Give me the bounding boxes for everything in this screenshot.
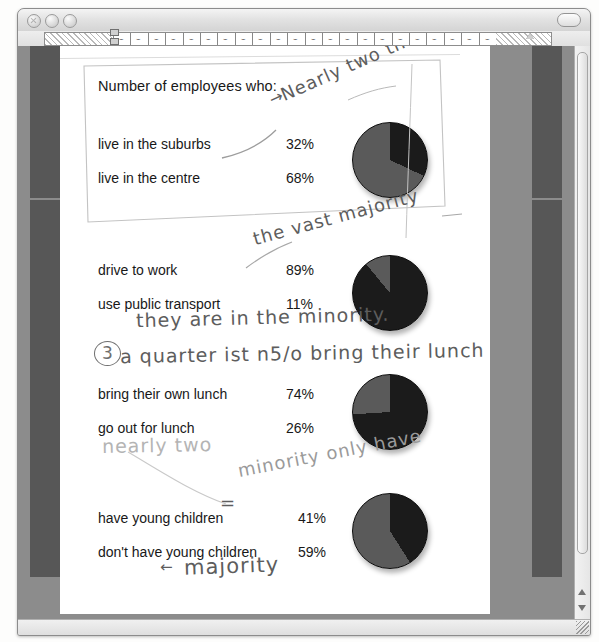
ruler-tab-stop[interactable]: ⌣ — [119, 36, 124, 43]
annotation-majority: majority — [184, 552, 280, 579]
annotation-majority-arrow: ← — [160, 558, 174, 576]
data-row: have young children 41% — [98, 510, 223, 526]
ruler-tab-stop[interactable]: ⌣ — [311, 36, 316, 43]
ruler-tab-stop[interactable]: ⌣ — [258, 36, 263, 43]
ruler-tick — [200, 33, 201, 45]
ruler-indent-marker[interactable] — [110, 29, 117, 46]
ruler-tab-stop[interactable]: ⌣ — [415, 36, 420, 43]
row-value: 59% — [298, 544, 326, 560]
scroll-up-arrow-icon[interactable] — [578, 589, 586, 595]
ruler-tab-stop[interactable]: ⌣ — [293, 36, 298, 43]
ruler-tick — [392, 33, 393, 45]
ruler-tick — [305, 33, 306, 45]
annotation-a-quarter-bring-their-lunch: a quarter ist n5/o bring their lunch — [120, 339, 485, 367]
ruler-tick — [461, 33, 462, 45]
data-row: live in the centre 68% — [98, 170, 200, 186]
close-icon — [28, 15, 40, 27]
ruler-left-margin — [45, 33, 113, 45]
annotation-minority-only-have: minority only have — [236, 425, 423, 481]
row-label: drive to work — [98, 262, 177, 278]
ruler-tick-row: ⌣⌣⌣⌣⌣⌣⌣⌣⌣⌣⌣⌣⌣⌣⌣⌣⌣⌣⌣⌣⌣⌣ — [113, 33, 496, 45]
ruler-right-indent-marker[interactable] — [526, 33, 534, 39]
ruler-tick — [252, 33, 253, 45]
data-row: live in the suburbs 32% — [98, 136, 211, 152]
page-title: Number of employees who: — [98, 78, 277, 94]
document-page: Number of employees who: live in the sub… — [60, 46, 490, 614]
row-value: 68% — [286, 170, 314, 186]
ruler-tick — [217, 33, 218, 45]
ruler-tab-stop[interactable]: ⌣ — [171, 36, 176, 43]
ruler-tab-stop[interactable]: ⌣ — [189, 36, 194, 43]
ruler-tab-stop[interactable]: ⌣ — [136, 36, 141, 43]
zoom-icon — [64, 15, 76, 27]
data-row: drive to work 89% — [98, 262, 177, 278]
ruler-tab-stop[interactable]: ⌣ — [241, 36, 246, 43]
row-value: 89% — [286, 262, 314, 278]
ruler-tab-stop[interactable]: ⌣ — [276, 36, 281, 43]
ruler-tab-stop[interactable]: ⌣ — [328, 36, 333, 43]
ruler-tab-stop[interactable]: ⌣ — [398, 36, 403, 43]
horizontal-scrollbar[interactable] — [18, 619, 590, 635]
ruler-tick — [235, 33, 236, 45]
window-resize-grip[interactable] — [576, 621, 589, 634]
ruler-tab-stop[interactable]: ⌣ — [206, 36, 211, 43]
ruler-tab-stop[interactable]: ⌣ — [432, 36, 437, 43]
ruler[interactable]: ⌣⌣⌣⌣⌣⌣⌣⌣⌣⌣⌣⌣⌣⌣⌣⌣⌣⌣⌣⌣⌣⌣ — [44, 32, 552, 46]
annotation-circled-number-3: 3 — [94, 341, 121, 366]
ruler-tab-stop[interactable]: ⌣ — [485, 36, 490, 43]
ruler-tick — [148, 33, 149, 45]
ruler-tick — [339, 33, 340, 45]
ruler-tick — [444, 33, 445, 45]
ruler-strip: ⌣⌣⌣⌣⌣⌣⌣⌣⌣⌣⌣⌣⌣⌣⌣⌣⌣⌣⌣⌣⌣⌣ — [18, 31, 590, 47]
ruler-tab-stop[interactable]: ⌣ — [154, 36, 159, 43]
ruler-tab-stop[interactable]: ⌣ — [450, 36, 455, 43]
row-label: live in the suburbs — [98, 136, 211, 152]
vertical-scrollbar[interactable] — [574, 46, 590, 619]
ruler-tick — [426, 33, 427, 45]
ruler-tick — [479, 33, 480, 45]
row-value: 26% — [286, 420, 314, 436]
zoom-button[interactable] — [63, 14, 77, 28]
row-label: live in the centre — [98, 170, 200, 186]
page-frame-line-top — [60, 54, 460, 59]
page-right-gutter — [532, 46, 562, 577]
minimize-icon — [46, 15, 58, 27]
document-window: ⌣⌣⌣⌣⌣⌣⌣⌣⌣⌣⌣⌣⌣⌣⌣⌣⌣⌣⌣⌣⌣⌣ Number of emplo — [17, 8, 591, 636]
minimize-button[interactable] — [45, 14, 59, 28]
toolbar-toggle-button[interactable] — [557, 13, 581, 27]
ruler-tab-stop[interactable]: ⌣ — [467, 36, 472, 43]
ruler-tick — [409, 33, 410, 45]
pie-chart-children — [352, 493, 428, 569]
document-canvas: Number of employees who: live in the sub… — [18, 46, 574, 619]
ruler-tick — [270, 33, 271, 45]
scanned-page-background: ⌣⌣⌣⌣⌣⌣⌣⌣⌣⌣⌣⌣⌣⌣⌣⌣⌣⌣⌣⌣⌣⌣ Number of emplo — [0, 0, 599, 642]
close-button[interactable] — [27, 14, 41, 28]
ruler-tab-stop[interactable]: ⌣ — [363, 36, 368, 43]
row-value: 74% — [286, 386, 314, 402]
scroll-down-arrow-icon[interactable] — [578, 605, 586, 611]
vertical-scrollbar-thumb[interactable] — [577, 52, 588, 554]
row-value: 32% — [286, 136, 314, 152]
row-label: have young children — [98, 510, 223, 526]
ruler-right-margin — [496, 33, 551, 45]
ruler-tab-stop[interactable]: ⌣ — [223, 36, 228, 43]
annotation-equals-sign: = — [220, 492, 236, 513]
ruler-tab-stop[interactable]: ⌣ — [345, 36, 350, 43]
ruler-tick — [130, 33, 131, 45]
annotation-the-vast-majority: the vast majority — [251, 185, 421, 249]
pie-chart-residence — [352, 122, 428, 198]
ruler-tick — [165, 33, 166, 45]
row-value: 41% — [298, 510, 326, 526]
ruler-tick — [183, 33, 184, 45]
ruler-tick — [374, 33, 375, 45]
data-row: bring their own lunch 74% — [98, 386, 227, 402]
annotation-nearly-two: nearly two — [102, 433, 213, 457]
row-label: bring their own lunch — [98, 386, 227, 402]
ruler-tick — [357, 33, 358, 45]
page-content: Number of employees who: live in the sub… — [60, 46, 490, 614]
window-titlebar[interactable] — [18, 9, 590, 32]
page-left-gutter — [30, 46, 60, 577]
ruler-tab-stop[interactable]: ⌣ — [380, 36, 385, 43]
ruler-tick — [287, 33, 288, 45]
ruler-tick — [322, 33, 323, 45]
